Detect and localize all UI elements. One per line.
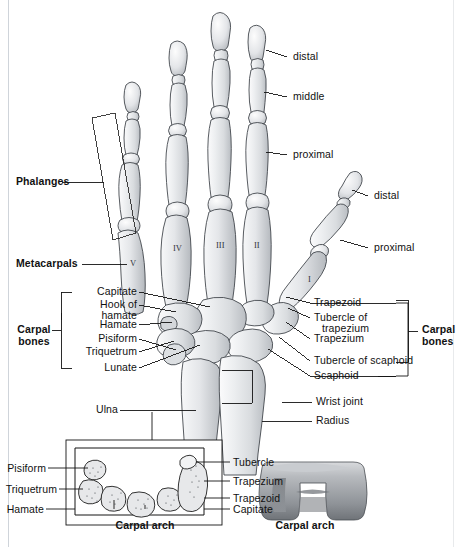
label-middle-finger: middle [293,91,325,103]
label-metacarpals: Metacarpals [16,258,78,270]
label-phalanges: Phalanges [16,176,69,188]
inset-label-hamate: Hamate [0,504,44,516]
numeral-V: V [130,258,136,268]
inset-caption-carpal-arch-cross: Carpal arch [90,520,200,532]
inset-label-pisiform: Pisiform [0,463,46,475]
inset-label-tubercle: Tubercle [233,457,274,469]
label-carpal-bones-right-1: Carpal [422,324,455,336]
label-trapezium: Trapezium [314,333,364,345]
inset-label-capitate: Capitate [233,504,273,516]
inset-caption-carpal-arch-3d: Carpal arch [255,520,355,532]
label-scaphoid: Scaphoid [314,370,359,382]
label-carpal-bones-left-1: Carpal [16,324,52,336]
numeral-III: III [216,240,225,250]
label-radius: Radius [316,415,349,427]
label-ulna: Ulna [72,404,118,416]
label-distal-finger: distal [293,51,318,63]
inset-label-triquetrum: Triquetrum [0,484,57,496]
label-wrist-joint: Wrist joint [316,396,363,408]
inset-label-trapezium: Trapezium [233,476,283,488]
label-capitate: Capitate [57,286,137,298]
carpal-arch-3d [259,462,367,520]
label-carpal-bones-left-2: bones [16,336,52,348]
figure-canvas: distal middle proximal distal proximal P… [0,0,460,547]
label-triquetrum: Triquetrum [49,346,137,358]
numeral-I: I [308,274,311,284]
label-trapezoid: Trapezoid [314,297,361,309]
label-tubercle-of-scaphoid: Tubercle of scaphoid [314,355,413,367]
numeral-II: II [254,240,260,250]
label-pisiform: Pisiform [57,333,137,345]
numeral-IV: IV [173,243,182,253]
label-lunate: Lunate [57,362,137,374]
label-hamate: Hamate [57,319,137,331]
label-distal-thumb: distal [374,190,399,202]
hand-illustration [0,0,460,547]
label-carpal-bones-right-2: bones [422,336,453,348]
label-proximal-finger: proximal [293,149,333,161]
label-proximal-thumb: proximal [374,242,414,254]
